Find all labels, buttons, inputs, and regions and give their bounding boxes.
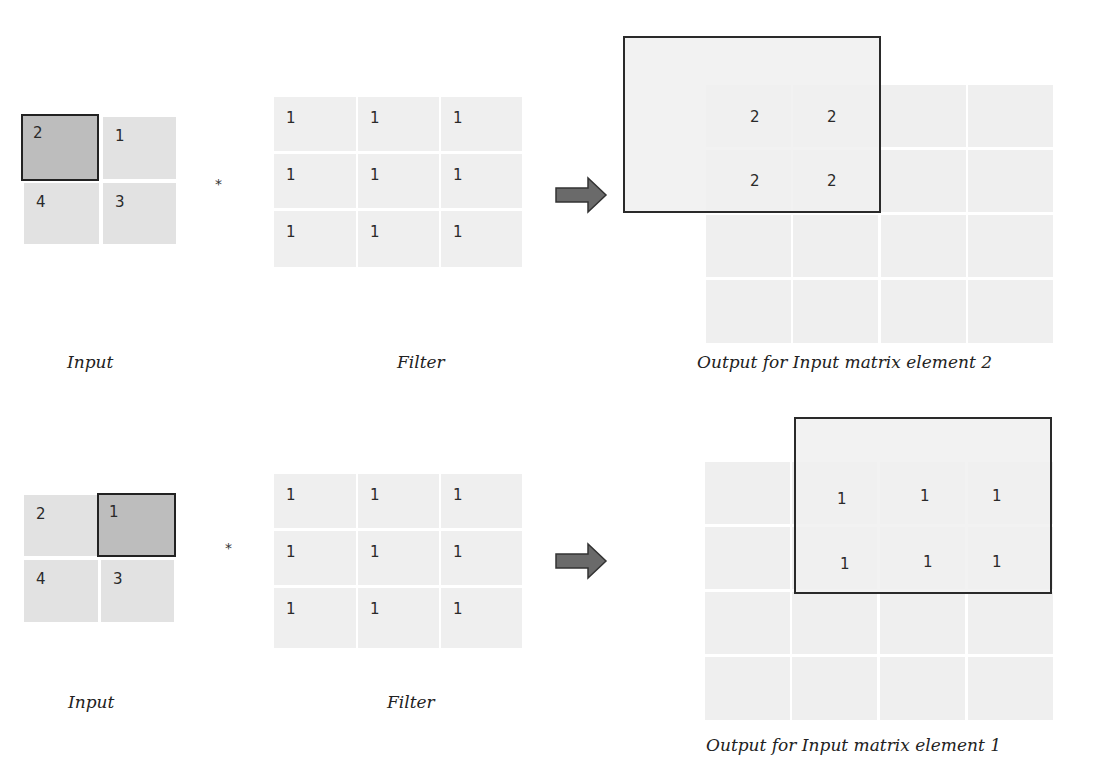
output-label: Output for Input matrix element 2 bbox=[697, 352, 992, 372]
filter-cell: 1 bbox=[358, 531, 439, 585]
output-value: 1 bbox=[992, 487, 1002, 505]
output-value: 2 bbox=[750, 108, 760, 126]
filter-cell: 1 bbox=[441, 531, 522, 585]
output-cell bbox=[968, 150, 1053, 212]
filter-cell: 1 bbox=[274, 588, 356, 648]
filter-cell: 1 bbox=[358, 154, 439, 208]
output-cell bbox=[705, 527, 790, 589]
output-value: 1 bbox=[837, 490, 847, 508]
input-cell: 4 bbox=[24, 183, 99, 244]
output-cell bbox=[880, 657, 965, 720]
output-value: 2 bbox=[827, 172, 837, 190]
filter-cell: 1 bbox=[441, 474, 522, 528]
filter-cell: 1 bbox=[441, 97, 522, 151]
input-cell: 3 bbox=[101, 560, 174, 622]
output-cell bbox=[706, 280, 791, 343]
filter-label: Filter bbox=[397, 352, 445, 372]
output-cell bbox=[705, 657, 790, 720]
output-cell bbox=[792, 657, 877, 720]
input-cell: 3 bbox=[103, 183, 176, 244]
output-cell bbox=[881, 280, 966, 343]
output-value: 2 bbox=[750, 172, 760, 190]
right-arrow-icon bbox=[554, 176, 608, 214]
input-cell-highlighted: 2 bbox=[21, 114, 99, 181]
filter-cell: 1 bbox=[441, 211, 522, 267]
filter-cell: 1 bbox=[274, 531, 356, 585]
input-cell-value: 2 bbox=[33, 124, 43, 142]
output-value: 1 bbox=[840, 555, 850, 573]
output-cell bbox=[792, 592, 877, 654]
output-cell bbox=[880, 592, 965, 654]
output-cell bbox=[968, 592, 1053, 654]
output-cell bbox=[881, 150, 966, 212]
filter-cell: 1 bbox=[358, 474, 439, 528]
output-cell bbox=[968, 215, 1053, 277]
output-value: 1 bbox=[992, 553, 1002, 571]
output-cell bbox=[968, 280, 1053, 343]
output-cell bbox=[705, 462, 790, 524]
filter-cell: 1 bbox=[274, 474, 356, 528]
output-label: Output for Input matrix element 1 bbox=[706, 735, 1001, 755]
input-cell-value: 1 bbox=[115, 127, 125, 145]
input-cell-value: 4 bbox=[36, 193, 46, 211]
input-label: Input bbox=[68, 692, 114, 712]
input-cell: 1 bbox=[103, 117, 176, 179]
convolution-operator: * bbox=[215, 176, 222, 192]
input-cell-value: 3 bbox=[115, 193, 125, 211]
input-label: Input bbox=[67, 352, 113, 372]
output-cell bbox=[793, 280, 878, 343]
filter-cell: 1 bbox=[358, 211, 439, 267]
output-cell bbox=[706, 215, 791, 277]
input-cell: 4 bbox=[24, 560, 98, 622]
output-cell bbox=[793, 215, 878, 277]
filter-cell: 1 bbox=[358, 588, 439, 648]
output-value: 1 bbox=[920, 487, 930, 505]
output-cell bbox=[968, 85, 1053, 147]
filter-cell: 1 bbox=[441, 154, 522, 208]
right-arrow-icon bbox=[554, 542, 608, 580]
output-cell bbox=[968, 657, 1053, 720]
output-cell bbox=[705, 592, 790, 654]
input-cell: 2 bbox=[24, 495, 98, 556]
filter-label: Filter bbox=[387, 692, 435, 712]
filter-cell: 1 bbox=[358, 97, 439, 151]
output-value: 1 bbox=[923, 553, 933, 571]
filter-cell: 1 bbox=[441, 588, 522, 648]
output-cell bbox=[881, 85, 966, 147]
output-value: 2 bbox=[827, 108, 837, 126]
filter-cell: 1 bbox=[274, 211, 356, 267]
output-cell bbox=[881, 215, 966, 277]
input-cell-highlighted: 1 bbox=[97, 493, 176, 557]
convolution-operator: * bbox=[225, 540, 232, 556]
filter-cell: 1 bbox=[274, 97, 356, 151]
filter-cell: 1 bbox=[274, 154, 356, 208]
